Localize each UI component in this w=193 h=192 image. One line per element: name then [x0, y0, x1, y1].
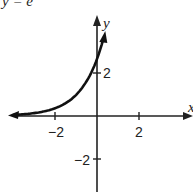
y-tick-neg2: −2: [74, 152, 90, 168]
y-tick-2: 2: [103, 65, 111, 81]
x-tick-2: 2: [135, 124, 143, 140]
exponential-graph: y = e x y −2 2 2 −2: [0, 0, 193, 192]
curve-right-arrow-icon: [99, 31, 107, 43]
curve-left-arrow-icon: [8, 111, 19, 119]
y-axis-label: y: [101, 15, 110, 31]
exponential-curve: [13, 39, 103, 115]
x-tick-neg2: −2: [48, 124, 64, 140]
title-partial: y = e: [0, 0, 33, 9]
x-axis-label: x: [187, 99, 193, 115]
y-axis-arrow-icon: [93, 15, 101, 26]
